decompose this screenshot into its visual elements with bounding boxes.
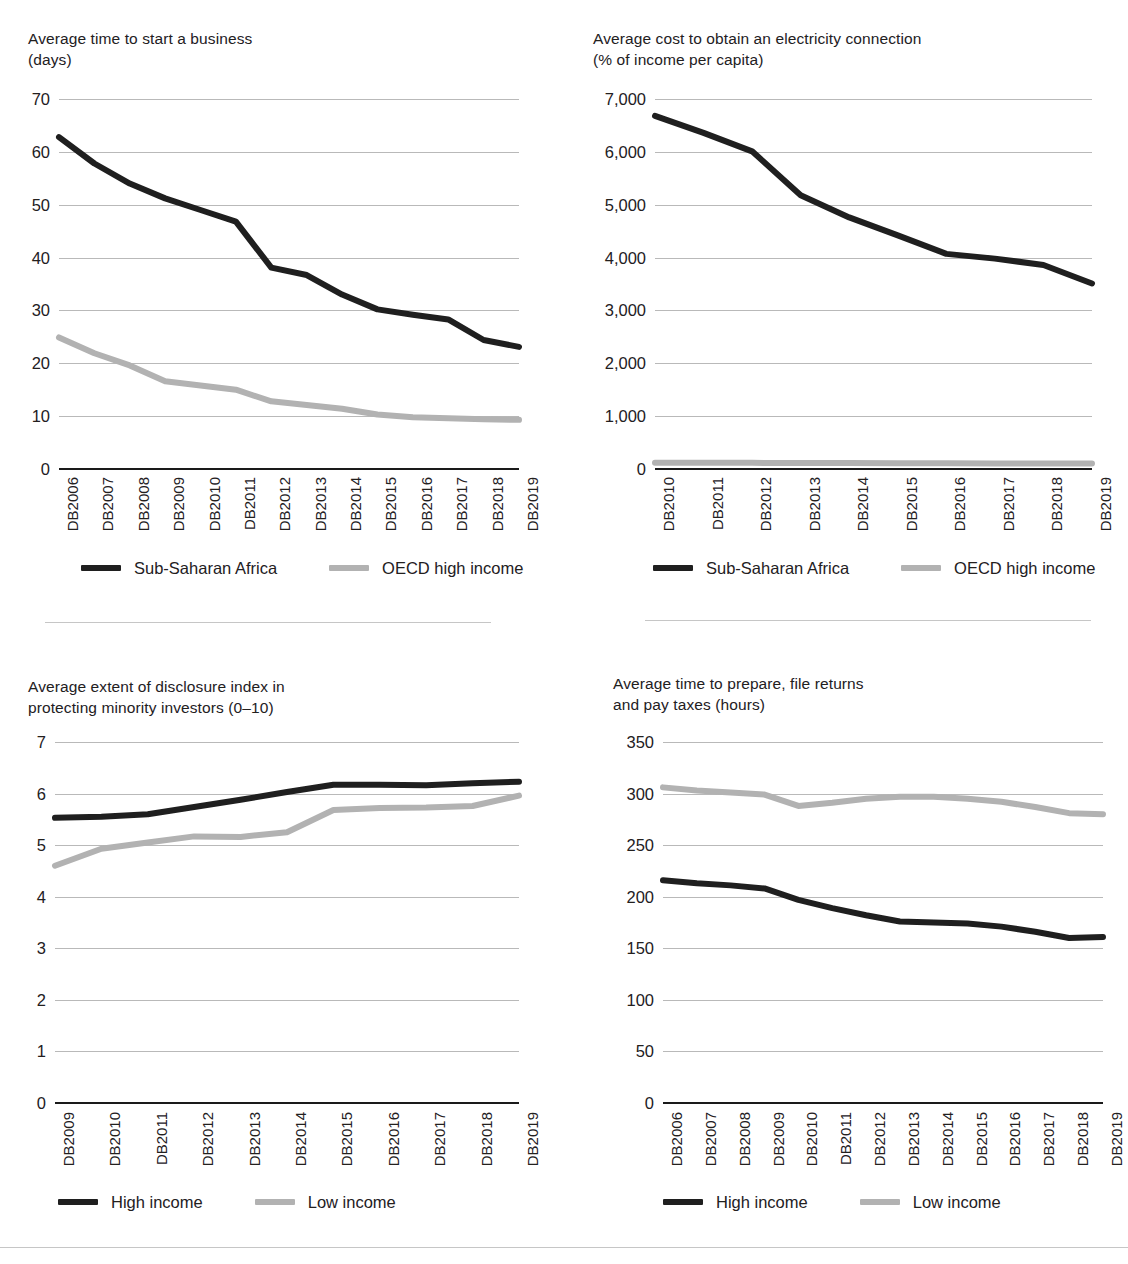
x-axis-tick-label: DB2017 xyxy=(1001,477,1016,531)
series-line xyxy=(655,463,1092,464)
legend-item[interactable]: OECD high income xyxy=(329,560,523,577)
x-axis-tick-label: DB2014 xyxy=(293,1112,308,1166)
series-line xyxy=(655,116,1092,284)
y-axis-tick-label: 2 xyxy=(37,992,46,1009)
y-axis-tick-label: 4,000 xyxy=(605,249,646,266)
x-axis-tick-label: DB2013 xyxy=(807,477,822,531)
plot-area: 01234567 xyxy=(55,742,519,1103)
legend-label: High income xyxy=(111,1194,203,1211)
legend-item[interactable]: OECD high income xyxy=(901,560,1095,577)
series-line xyxy=(663,880,1103,938)
x-axis-tick-label: DB2006 xyxy=(65,477,80,531)
x-axis-tick-label: DB2012 xyxy=(872,1112,887,1166)
x-axis-tick-label: DB2007 xyxy=(703,1112,718,1166)
legend-item[interactable]: High income xyxy=(58,1194,203,1211)
x-axis-tick-label: DB2014 xyxy=(348,477,363,531)
x-axis-tick-label: DB2010 xyxy=(661,477,676,531)
legend-swatch xyxy=(81,565,121,571)
legend-swatch xyxy=(663,1199,703,1205)
plot-area: 010203040506070 xyxy=(59,99,519,469)
x-axis-tick-label: DB2013 xyxy=(313,477,328,531)
legend-swatch xyxy=(860,1199,900,1205)
x-axis-tick-label: DB2011 xyxy=(838,1112,853,1165)
x-axis-tick-label: DB2018 xyxy=(490,477,505,531)
series-layer xyxy=(55,742,519,1103)
legend-item[interactable]: Low income xyxy=(255,1194,396,1211)
series-layer xyxy=(663,742,1103,1103)
x-axis-tick-label: DB2015 xyxy=(339,1112,354,1166)
x-axis-tick-label: DB2011 xyxy=(242,477,257,530)
x-axis-tick-label: DB2015 xyxy=(383,477,398,531)
x-axis-tick-label: DB2009 xyxy=(171,477,186,531)
legend-label: Sub-Saharan Africa xyxy=(134,560,277,577)
y-axis-tick-label: 0 xyxy=(41,461,50,478)
y-axis-tick-label: 50 xyxy=(32,196,50,213)
legend-swatch xyxy=(653,565,693,571)
x-axis-tick-label: DB2007 xyxy=(100,477,115,531)
panel-time-to-pay-taxes: Average time to prepare, file returns an… xyxy=(613,673,1113,1233)
legend-swatch xyxy=(901,565,941,571)
legend: High incomeLow income xyxy=(58,1194,448,1211)
y-axis-tick-label: 3 xyxy=(37,940,46,957)
legend-item[interactable]: Low income xyxy=(860,1194,1001,1211)
series-line xyxy=(59,337,519,419)
y-axis-tick-label: 200 xyxy=(626,888,654,905)
series-line xyxy=(55,796,519,866)
legend-item[interactable]: Sub-Saharan Africa xyxy=(81,560,277,577)
series-layer xyxy=(655,99,1092,469)
legend-label: OECD high income xyxy=(954,560,1095,577)
y-axis-tick-label: 250 xyxy=(626,837,654,854)
x-axis-tick-label: DB2008 xyxy=(136,477,151,531)
y-axis-tick-label: 0 xyxy=(37,1095,46,1112)
panel-title: Average time to start a business (days) xyxy=(28,28,528,70)
y-axis-tick-label: 10 xyxy=(32,408,50,425)
x-axis-tick-label: DB2014 xyxy=(855,477,870,531)
x-axis-tick-label: DB2016 xyxy=(386,1112,401,1166)
series-line xyxy=(663,787,1103,814)
x-axis-tick-label: DB2015 xyxy=(904,477,919,531)
y-axis-tick-label: 7,000 xyxy=(605,91,646,108)
y-axis-tick-label: 70 xyxy=(32,91,50,108)
y-axis-tick-label: 1,000 xyxy=(605,408,646,425)
x-axis-tick-label: DB2018 xyxy=(1049,477,1064,531)
legend-item[interactable]: High income xyxy=(663,1194,808,1211)
legend-item[interactable]: Sub-Saharan Africa xyxy=(653,560,849,577)
page-bottom-divider xyxy=(0,1247,1128,1248)
y-axis-tick-label: 7 xyxy=(37,734,46,751)
y-axis-tick-label: 50 xyxy=(636,1043,654,1060)
panel-title: Average cost to obtain an electricity co… xyxy=(593,28,1113,70)
y-axis-tick-label: 3,000 xyxy=(605,302,646,319)
series-line xyxy=(55,782,519,818)
y-axis-tick-label: 4 xyxy=(37,888,46,905)
y-axis-tick-label: 5,000 xyxy=(605,196,646,213)
x-axis-tick-label: DB2016 xyxy=(952,477,967,531)
legend-label: OECD high income xyxy=(382,560,523,577)
panel-electricity-connection-cost: Average cost to obtain an electricity co… xyxy=(593,28,1113,588)
series-layer xyxy=(59,99,519,469)
legend-swatch xyxy=(329,565,369,571)
x-axis-tick-label: DB2019 xyxy=(525,1112,540,1166)
legend-label: High income xyxy=(716,1194,808,1211)
x-axis-tick-label: DB2016 xyxy=(1007,1112,1022,1166)
y-axis-tick-label: 150 xyxy=(626,940,654,957)
x-axis-tick-label: DB2017 xyxy=(432,1112,447,1166)
x-axis-tick-label: DB2010 xyxy=(207,477,222,531)
x-axis-tick-label: DB2006 xyxy=(669,1112,684,1166)
y-axis-tick-label: 6 xyxy=(37,785,46,802)
legend-label: Low income xyxy=(913,1194,1001,1211)
x-axis-tick-label: DB2009 xyxy=(61,1112,76,1166)
y-axis-tick-label: 60 xyxy=(32,144,50,161)
y-axis-tick-label: 20 xyxy=(32,355,50,372)
x-axis-tick-label: DB2013 xyxy=(247,1112,262,1166)
x-axis-tick-label: DB2019 xyxy=(1098,477,1113,531)
panel-title: Average extent of disclosure index in pr… xyxy=(28,676,528,718)
legend: High incomeLow income xyxy=(663,1194,1053,1211)
x-axis-tick-label: DB2014 xyxy=(940,1112,955,1166)
legend: Sub-Saharan AfricaOECD high income xyxy=(81,560,575,577)
x-axis-tick-label: DB2011 xyxy=(710,477,725,530)
panel-disclosure-index: Average extent of disclosure index in pr… xyxy=(28,676,528,1236)
y-axis-tick-label: 100 xyxy=(626,992,654,1009)
figure-page: Average time to start a business (days) … xyxy=(0,0,1128,1264)
legend: Sub-Saharan AfricaOECD high income xyxy=(653,560,1128,577)
x-axis-tick-label: DB2018 xyxy=(1075,1112,1090,1166)
